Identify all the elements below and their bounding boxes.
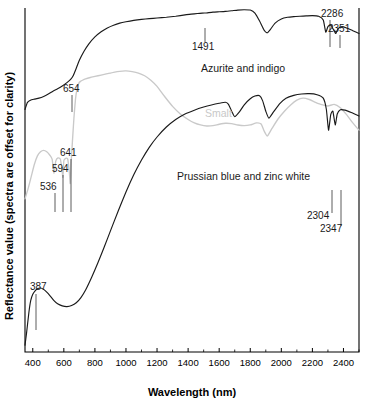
- x-tick-label: 2000: [271, 357, 292, 368]
- x-tick-labels: 4006008001000120014001600180020002200240…: [25, 357, 354, 368]
- annotation-label-387: 387: [30, 281, 47, 292]
- series-inline-labels: Azurite and indigoSmaltPrussian blue and…: [177, 62, 310, 182]
- x-tick-label: 1400: [178, 357, 199, 368]
- x-tick-label: 1200: [146, 357, 167, 368]
- label-prussian: Prussian blue and zinc white: [177, 170, 310, 182]
- label-smalt: Smalt: [205, 107, 232, 119]
- annotation-label-2347: 2347: [320, 223, 343, 234]
- x-tick-label: 800: [87, 357, 103, 368]
- annotation-label-1491: 1491: [192, 41, 215, 52]
- spectral-reflectance-chart: 38753659464165414912286235123042347 Azur…: [0, 0, 371, 402]
- x-tick-label: 400: [25, 357, 41, 368]
- annotation-label-594: 594: [52, 163, 69, 174]
- label-azurite: Azurite and indigo: [201, 62, 285, 74]
- x-tick-label: 2200: [302, 357, 323, 368]
- annotation-label-2286: 2286: [321, 8, 344, 19]
- x-tick-label: 1000: [115, 357, 136, 368]
- x-tick-label: 1800: [240, 357, 261, 368]
- chart-canvas: 38753659464165414912286235123042347 Azur…: [0, 0, 371, 402]
- annotation-label-2304: 2304: [307, 210, 330, 221]
- x-axis-title: Wavelength (nm): [148, 386, 237, 398]
- x-tick-label: 1600: [209, 357, 230, 368]
- annotation-label-536: 536: [40, 181, 57, 192]
- x-tick-label: 2400: [333, 357, 354, 368]
- y-axis-title: Reflectance value (spectra are offset fo…: [3, 72, 15, 321]
- axis-ticks: [33, 348, 359, 352]
- annotation-label-654: 654: [63, 83, 80, 94]
- annotation-label-641: 641: [60, 147, 77, 158]
- annotation-labels: 38753659464165414912286235123042347: [30, 8, 351, 292]
- annotation-label-2351: 2351: [328, 23, 351, 34]
- x-tick-label: 600: [56, 357, 72, 368]
- series-line-azurite-and-indigo: [25, 10, 359, 110]
